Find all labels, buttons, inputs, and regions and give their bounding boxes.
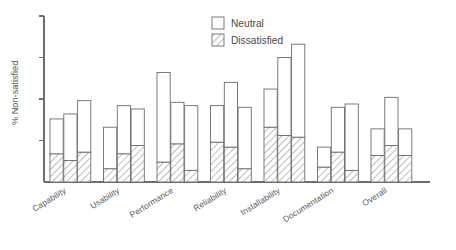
bar-segment-dissatisfied bbox=[131, 145, 144, 182]
bar-segment-neutral bbox=[224, 82, 237, 147]
legend-swatch-neutral bbox=[212, 17, 224, 29]
bar-segment-dissatisfied bbox=[171, 144, 184, 182]
bars-layer bbox=[50, 44, 412, 182]
bar-segment-neutral bbox=[385, 97, 398, 145]
bar-segment-neutral bbox=[117, 106, 130, 154]
bar-segment-dissatisfied bbox=[238, 169, 251, 182]
bar-segment-neutral bbox=[157, 72, 170, 162]
category-label: Usability bbox=[88, 185, 122, 211]
legend-label-dissatisfied: Dissatisfied bbox=[231, 35, 283, 46]
bar-segment-dissatisfied bbox=[318, 167, 331, 182]
category-labels: CapabilityUsabilityPerformanceReliabilit… bbox=[30, 185, 388, 224]
bar-segment-neutral bbox=[171, 102, 184, 144]
legend: Neutral Dissatisfied bbox=[212, 17, 283, 46]
bar-segment-neutral bbox=[64, 114, 77, 160]
bar-segment-dissatisfied bbox=[264, 127, 277, 182]
category-label: Documentation bbox=[281, 185, 335, 224]
bar-segment-dissatisfied bbox=[331, 152, 344, 182]
y-axis-label: % Non-satisfied bbox=[10, 61, 20, 125]
bar-segment-dissatisfied bbox=[64, 160, 77, 182]
y-axis bbox=[39, 16, 44, 182]
bar-segment-dissatisfied bbox=[211, 142, 224, 182]
bar-segment-neutral bbox=[264, 89, 277, 127]
bar-segment-neutral bbox=[371, 129, 384, 156]
bar-segment-neutral bbox=[50, 119, 63, 154]
bar-segment-dissatisfied bbox=[371, 155, 384, 182]
legend-label-neutral: Neutral bbox=[231, 18, 264, 29]
bar-segment-neutral bbox=[185, 106, 198, 171]
bar-segment-neutral bbox=[292, 44, 305, 137]
chart-container: % Non-satisfied CapabilityUsabilityPerfo… bbox=[0, 0, 456, 250]
bar-segment-dissatisfied bbox=[278, 136, 291, 182]
bar-segment-neutral bbox=[318, 147, 331, 167]
bar-segment-dissatisfied bbox=[117, 154, 130, 182]
bar-segment-neutral bbox=[78, 101, 91, 152]
bar-segment-dissatisfied bbox=[50, 154, 63, 182]
bar-segment-dissatisfied bbox=[104, 169, 117, 182]
bar-segment-neutral bbox=[399, 129, 412, 156]
non-satisfied-bar-chart: % Non-satisfied CapabilityUsabilityPerfo… bbox=[0, 0, 456, 250]
category-label: Capability bbox=[30, 185, 68, 214]
bar-segment-dissatisfied bbox=[78, 152, 91, 182]
category-label: Performance bbox=[128, 185, 175, 220]
bar-segment-neutral bbox=[278, 58, 291, 136]
y-axis-ticks bbox=[39, 16, 44, 141]
category-label: Installability bbox=[239, 185, 283, 218]
bar-segment-dissatisfied bbox=[157, 162, 170, 182]
bar-segment-dissatisfied bbox=[292, 137, 305, 182]
bar-segment-neutral bbox=[211, 106, 224, 143]
bar-segment-neutral bbox=[238, 107, 251, 168]
legend-swatch-dissatisfied bbox=[212, 34, 224, 46]
bar-segment-dissatisfied bbox=[185, 170, 198, 182]
bar-segment-neutral bbox=[345, 104, 358, 170]
category-label: Reliability bbox=[192, 185, 229, 213]
bar-segment-neutral bbox=[104, 127, 117, 169]
category-label: Overall bbox=[360, 185, 388, 208]
bar-segment-neutral bbox=[131, 109, 144, 146]
bar-segment-dissatisfied bbox=[385, 145, 398, 182]
bar-segment-dissatisfied bbox=[399, 155, 412, 182]
bar-segment-dissatisfied bbox=[224, 147, 237, 182]
bar-segment-neutral bbox=[331, 107, 344, 152]
bar-segment-dissatisfied bbox=[345, 170, 358, 182]
